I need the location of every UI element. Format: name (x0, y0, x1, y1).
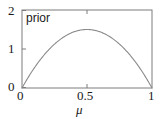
prior-curve (22, 30, 152, 89)
y-axis-tick-label-1: 1 (8, 42, 15, 55)
x-axis-tick-label-1: 1 (148, 89, 155, 102)
y-axis-tick-label-0: 0 (8, 80, 15, 93)
prior-annotation-label: prior (26, 12, 50, 24)
prior-distribution-figure: 2 1 0 0 0.5 1 μ prior (0, 0, 164, 119)
x-axis-tick-label-0: 0 (17, 89, 24, 102)
x-axis-title: μ (76, 103, 83, 116)
x-axis-tick-label-0.5: 0.5 (77, 89, 93, 102)
y-axis-tick-label-2: 2 (8, 4, 15, 17)
